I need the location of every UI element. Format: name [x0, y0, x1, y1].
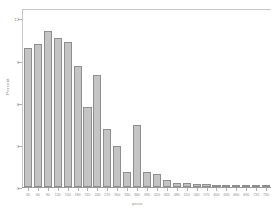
- bar-rect: [113, 146, 121, 187]
- histogram-bar: [63, 10, 73, 187]
- x-tick-labels: 3060901201501802102402703003303603904204…: [23, 191, 271, 199]
- x-tick-label: 420: [152, 191, 162, 199]
- bar-rect: [133, 125, 141, 187]
- x-tick-label: 720: [251, 191, 261, 199]
- x-tick-label: 120: [53, 191, 63, 199]
- bar-rect: [183, 183, 191, 187]
- x-tick-label: 270: [102, 191, 112, 199]
- x-tick-label: 600: [212, 191, 222, 199]
- bar-rect: [44, 31, 52, 187]
- bar-rect: [93, 75, 101, 187]
- histogram-bar: [112, 10, 122, 187]
- x-tick-label: 510: [182, 191, 192, 199]
- histogram-bar: [83, 10, 93, 187]
- histogram-bar: [102, 10, 112, 187]
- x-tick-label: 30: [23, 191, 33, 199]
- histogram-bar: [182, 10, 192, 187]
- histogram-bar: [241, 10, 251, 187]
- bar-rect: [252, 185, 260, 187]
- histogram-bar: [202, 10, 212, 187]
- histogram-bars: [23, 10, 271, 187]
- bar-rect: [242, 185, 250, 187]
- x-tick-label: 570: [202, 191, 212, 199]
- x-tick-label: 330: [122, 191, 132, 199]
- bar-rect: [34, 44, 42, 187]
- histogram-bar: [23, 10, 33, 187]
- y-tick-label: 3: [5, 143, 19, 148]
- histogram-bar: [172, 10, 182, 187]
- y-axis-title: Percent: [5, 78, 10, 95]
- x-tick-label: 690: [241, 191, 251, 199]
- x-tick-label: 210: [83, 191, 93, 199]
- x-tick-label: 60: [33, 191, 43, 199]
- x-tick-label: 750: [261, 191, 271, 199]
- x-tick-label: 150: [63, 191, 73, 199]
- histogram-bar: [53, 10, 63, 187]
- x-tick-label: 660: [231, 191, 241, 199]
- histogram-bar: [43, 10, 53, 187]
- x-tick-label: 630: [221, 191, 231, 199]
- x-tick-label: 180: [73, 191, 83, 199]
- x-tick-label: 450: [162, 191, 172, 199]
- bar-rect: [212, 185, 220, 187]
- histogram-bar: [152, 10, 162, 187]
- y-tick-label: 9: [5, 59, 19, 64]
- x-tick-label: 480: [172, 191, 182, 199]
- histogram-bar: [73, 10, 83, 187]
- bar-rect: [103, 129, 111, 187]
- plot-area: 036912: [22, 10, 271, 188]
- histogram-bar: [132, 10, 142, 187]
- histogram-bar: [261, 10, 271, 187]
- bar-rect: [232, 185, 240, 187]
- x-tick-label: 300: [112, 191, 122, 199]
- histogram-bar: [231, 10, 241, 187]
- bar-rect: [64, 42, 72, 187]
- histogram-bar: [192, 10, 202, 187]
- histogram-bar: [251, 10, 261, 187]
- bar-rect: [173, 183, 181, 187]
- bar-rect: [74, 66, 82, 187]
- x-tick-label: 90: [43, 191, 53, 199]
- bar-rect: [262, 185, 270, 187]
- bar-rect: [163, 180, 171, 187]
- bar-rect: [193, 184, 201, 187]
- histogram-bar: [221, 10, 231, 187]
- bar-rect: [202, 184, 210, 187]
- histogram-figure: 036912 306090120150180210240270300330360…: [0, 0, 275, 212]
- x-tick-label: 390: [142, 191, 152, 199]
- x-tick-label: 360: [132, 191, 142, 199]
- x-axis-title: price: [0, 201, 275, 206]
- bar-rect: [222, 185, 230, 187]
- histogram-bar: [162, 10, 172, 187]
- bar-rect: [153, 174, 161, 187]
- bar-rect: [143, 172, 151, 187]
- y-tick-label: 12: [5, 17, 19, 22]
- histogram-bar: [212, 10, 222, 187]
- bar-rect: [83, 107, 91, 187]
- histogram-bar: [142, 10, 152, 187]
- y-tick-label: 6: [5, 101, 19, 106]
- x-tick-label: 240: [92, 191, 102, 199]
- y-tick-label: 0: [5, 186, 19, 191]
- histogram-bar: [33, 10, 43, 187]
- bar-rect: [54, 38, 62, 187]
- bar-rect: [24, 48, 32, 187]
- histogram-bar: [122, 10, 132, 187]
- histogram-bar: [92, 10, 102, 187]
- bar-rect: [123, 172, 131, 187]
- x-tick-label: 540: [192, 191, 202, 199]
